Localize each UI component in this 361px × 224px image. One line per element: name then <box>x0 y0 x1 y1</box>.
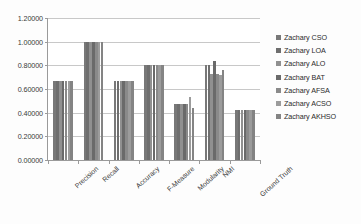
x-axis-tick-label: Accuracy <box>134 165 160 189</box>
legend-item: Zachary CSO <box>276 31 361 44</box>
x-axis-tick-label: Ground Truth <box>259 165 294 198</box>
bar <box>161 65 164 160</box>
legend-swatch-icon <box>276 101 281 106</box>
bar <box>70 81 73 160</box>
legend-item-label: Zachary ACSO <box>284 99 331 108</box>
legend-item-label: Zachary CSO <box>284 33 327 42</box>
bar-group <box>230 18 260 160</box>
bar <box>192 108 195 160</box>
y-axis-tick-label: 0.60000 <box>18 85 43 94</box>
bar-chart: 0.000000.200000.400000.600000.800001.000… <box>0 6 270 171</box>
bar <box>222 70 225 160</box>
legend-swatch-icon <box>276 75 281 80</box>
legend-swatch-icon <box>276 88 281 93</box>
legend-item-label: Zachary LOA <box>284 46 326 55</box>
legend-item: Zachary BAT <box>276 71 361 84</box>
y-axis-tick-label: 0.40000 <box>18 108 43 117</box>
legend: Zachary CSOZachary LOAZachary ALOZachary… <box>276 31 361 123</box>
x-axis-labels: PrecisionRecallAccuracyF-MeasureModulari… <box>47 163 260 213</box>
legend-item: Zachary ACSO <box>276 97 361 110</box>
legend-item: Zachary AFSA <box>276 84 361 97</box>
bar-group <box>139 18 169 160</box>
legend-item: Zachary LOA <box>276 44 361 57</box>
legend-item: Zachary ALO <box>276 57 361 70</box>
bar-group <box>199 18 229 160</box>
bar <box>131 81 134 160</box>
legend-item: Zachary AKHSO <box>276 110 361 123</box>
bar-group <box>48 18 78 160</box>
y-axis-tick-label: 1.00000 <box>18 37 43 46</box>
y-axis-tick-label: 0.20000 <box>18 132 43 141</box>
legend-swatch-icon <box>276 61 281 66</box>
legend-swatch-icon <box>276 48 281 53</box>
bar-group <box>169 18 199 160</box>
bar-group <box>109 18 139 160</box>
x-axis-tick <box>260 160 261 164</box>
legend-swatch-icon <box>276 35 281 40</box>
figure: 0.000000.200000.400000.600000.800001.000… <box>0 0 361 224</box>
x-axis-tick-label: Precision <box>73 165 99 189</box>
x-axis-tick-label: NMI <box>221 165 235 179</box>
bar-groups <box>48 18 260 160</box>
plot-area: 0.000000.200000.400000.600000.800001.000… <box>47 18 260 161</box>
x-axis-tick-label: Modularity <box>196 165 225 192</box>
bar <box>101 42 104 160</box>
y-axis-tick-label: 0.00000 <box>18 156 43 165</box>
x-axis-tick-label: Recall <box>101 165 120 183</box>
legend-item-label: Zachary AFSA <box>284 86 330 95</box>
y-axis-tick-label: 0.80000 <box>18 61 43 70</box>
bar-group <box>78 18 108 160</box>
legend-swatch-icon <box>276 114 281 119</box>
legend-item-label: Zachary BAT <box>284 73 325 82</box>
y-axis-tick-label: 1.20000 <box>18 14 43 23</box>
x-axis-tick-label: F-Measure <box>166 165 196 193</box>
legend-item-label: Zachary AKHSO <box>284 112 336 121</box>
legend-item-label: Zachary ALO <box>284 59 325 68</box>
bar <box>252 110 255 160</box>
